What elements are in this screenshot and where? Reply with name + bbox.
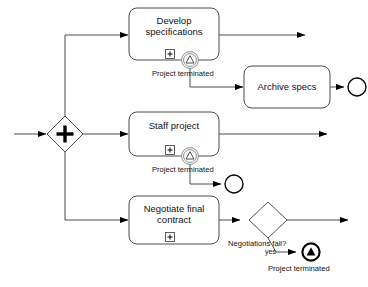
negotiations-fail-gateway-shape (249, 202, 287, 238)
negotiations-fail-gateway-label: Negotiations fail? (228, 239, 286, 248)
boundary-event-staff-label: Project terminated (152, 165, 214, 174)
end-event-staff-terminated-shape (225, 175, 243, 193)
boundary-event-develop-label: Project terminated (152, 69, 214, 78)
flow-gateway-to-negotiate (65, 152, 128, 220)
flow-label-yes: yes (265, 248, 276, 256)
archive-specs-task-shape (244, 66, 330, 108)
flow-gateway-to-develop (65, 35, 128, 116)
bpmn-vector-layer (0, 0, 368, 287)
bpmn-diagram-canvas: Develop specifications Project terminate… (0, 0, 368, 287)
end-event-project-terminated-label: Project terminated (268, 264, 330, 273)
end-event-archive-shape (348, 78, 366, 96)
